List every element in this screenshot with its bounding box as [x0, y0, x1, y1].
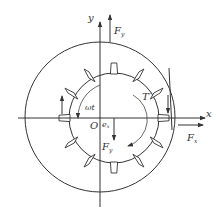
force-y-down-label: Fy: [102, 142, 112, 153]
force-x-label: Fx: [187, 133, 197, 144]
origin-label: O: [90, 121, 98, 131]
y-axis-label: y: [88, 13, 94, 23]
eccentricity-label: ex: [102, 121, 109, 130]
force-y-down-sub: y: [109, 146, 112, 153]
x-axis-label: x: [206, 109, 212, 119]
omega-t-label: ωt: [85, 104, 95, 112]
force-x-main: F: [187, 132, 194, 143]
rotor-eccentricity-diagram: y x O Fy Fx Fy ωt ex T′: [0, 0, 220, 217]
force-y-top-sub: y: [121, 30, 124, 37]
force-y-top-main: F: [114, 25, 121, 36]
eccentricity-sub: x: [107, 124, 110, 129]
force-x-sub: x: [194, 137, 197, 144]
force-y-down-main: F: [102, 141, 109, 152]
force-y-top-label: Fy: [114, 26, 124, 37]
diagram-canvas: [0, 0, 220, 217]
torque-label: T′: [142, 92, 151, 102]
omega-t-arc-arrow: [78, 85, 100, 118]
rotor-tooth: [110, 162, 117, 173]
torque-arc-arrow: [128, 95, 147, 146]
rotor-tooth: [110, 63, 117, 74]
